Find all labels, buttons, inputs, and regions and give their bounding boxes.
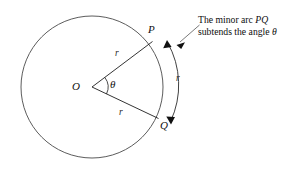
radius-line-op bbox=[92, 42, 153, 88]
central-angle-arc bbox=[105, 77, 108, 94]
annotation-leader-arrowhead bbox=[177, 42, 186, 49]
label-center-o: O bbox=[72, 81, 80, 92]
label-angle-theta: θ bbox=[110, 79, 115, 90]
figure-root: O P Q θ r r r The minor arc PQ subtends … bbox=[0, 0, 308, 171]
radius-line-oq bbox=[92, 87, 159, 119]
annotation-line-2-prefix: subtends the angle bbox=[198, 26, 272, 37]
label-arc-length: r bbox=[176, 74, 180, 84]
label-radius-lower: r bbox=[119, 108, 123, 118]
annotation-line-1-prefix: The minor arc bbox=[198, 14, 255, 25]
label-point-q: Q bbox=[160, 120, 168, 131]
annotation-leader-line bbox=[180, 25, 200, 42]
arc-arrowhead-top bbox=[163, 40, 171, 48]
annotation-line-1: The minor arc PQ bbox=[198, 14, 308, 26]
annotation-text: The minor arc PQ subtends the angle θ bbox=[198, 14, 308, 38]
label-point-p: P bbox=[148, 24, 155, 35]
annotation-line-1-italic: PQ bbox=[255, 14, 268, 25]
annotation-line-2: subtends the angle θ bbox=[198, 26, 308, 38]
annotation-line-2-italic: θ bbox=[272, 26, 277, 37]
label-radius-upper: r bbox=[115, 49, 119, 59]
